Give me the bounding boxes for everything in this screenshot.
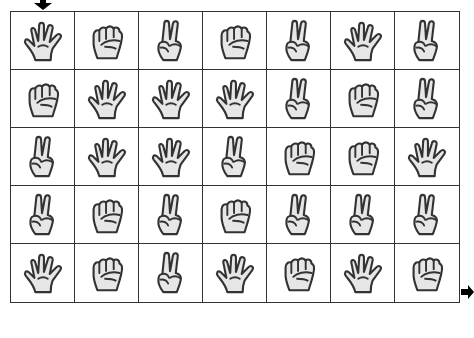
paper-hand-icon [340, 250, 386, 296]
scissors-hand-icon [148, 18, 194, 64]
grid-cell-r3-c4[interactable] [203, 128, 267, 186]
scissors-hand-icon [20, 192, 66, 238]
grid-cell-r2-c2[interactable] [75, 70, 139, 128]
paper-hand-icon [148, 76, 194, 122]
grid-cell-r5-c5[interactable] [267, 244, 331, 302]
scissors-hand-icon [276, 76, 322, 122]
scissors-hand-icon [148, 192, 194, 238]
grid-cell-r1-c6[interactable] [331, 12, 395, 70]
paper-hand-icon [212, 250, 258, 296]
scissors-hand-icon [340, 192, 386, 238]
paper-hand-icon [340, 18, 386, 64]
grid-cell-r4-c1[interactable] [11, 186, 75, 244]
scissors-hand-icon [148, 250, 194, 296]
rock-hand-icon [212, 192, 258, 238]
grid-cell-r2-c6[interactable] [331, 70, 395, 128]
rock-hand-icon [84, 250, 130, 296]
grid-cell-r2-c7[interactable] [395, 70, 459, 128]
grid-cell-r4-c4[interactable] [203, 186, 267, 244]
puzzle-grid [10, 11, 460, 303]
scissors-hand-icon [404, 18, 450, 64]
scissors-hand-icon [404, 192, 450, 238]
paper-hand-icon [148, 134, 194, 180]
end-arrow-icon [461, 285, 474, 299]
grid-cell-r3-c1[interactable] [11, 128, 75, 186]
grid-cell-r5-c6[interactable] [331, 244, 395, 302]
grid-cell-r5-c4[interactable] [203, 244, 267, 302]
grid-cell-r1-c1[interactable] [11, 12, 75, 70]
grid-cell-r1-c3[interactable] [139, 12, 203, 70]
rock-hand-icon [20, 76, 66, 122]
grid-cell-r4-c5[interactable] [267, 186, 331, 244]
scissors-hand-icon [404, 76, 450, 122]
rock-hand-icon [404, 250, 450, 296]
rock-hand-icon [340, 76, 386, 122]
rock-hand-icon [84, 18, 130, 64]
rock-hand-icon [340, 134, 386, 180]
grid-cell-r4-c7[interactable] [395, 186, 459, 244]
grid-cell-r1-c7[interactable] [395, 12, 459, 70]
paper-hand-icon [84, 134, 130, 180]
paper-hand-icon [404, 134, 450, 180]
grid-cell-r5-c1[interactable] [11, 244, 75, 302]
paper-hand-icon [84, 76, 130, 122]
grid-cell-r1-c5[interactable] [267, 12, 331, 70]
grid-cell-r5-c2[interactable] [75, 244, 139, 302]
grid-cell-r1-c2[interactable] [75, 12, 139, 70]
grid-cell-r3-c7[interactable] [395, 128, 459, 186]
scissors-hand-icon [276, 192, 322, 238]
grid-cell-r5-c3[interactable] [139, 244, 203, 302]
grid-cell-r3-c5[interactable] [267, 128, 331, 186]
scissors-hand-icon [212, 134, 258, 180]
grid-cell-r2-c3[interactable] [139, 70, 203, 128]
grid-cell-r2-c1[interactable] [11, 70, 75, 128]
grid-cell-r3-c6[interactable] [331, 128, 395, 186]
scissors-hand-icon [276, 18, 322, 64]
grid-cell-r3-c2[interactable] [75, 128, 139, 186]
rock-hand-icon [212, 18, 258, 64]
paper-hand-icon [20, 250, 66, 296]
grid-cell-r1-c4[interactable] [203, 12, 267, 70]
scissors-hand-icon [20, 134, 66, 180]
grid-cell-r3-c3[interactable] [139, 128, 203, 186]
rock-hand-icon [84, 192, 130, 238]
paper-hand-icon [20, 18, 66, 64]
grid-cell-r4-c6[interactable] [331, 186, 395, 244]
grid-cell-r2-c4[interactable] [203, 70, 267, 128]
grid-cell-r4-c2[interactable] [75, 186, 139, 244]
paper-hand-icon [212, 76, 258, 122]
start-arrow-icon [34, 0, 52, 10]
rock-hand-icon [276, 134, 322, 180]
rock-hand-icon [276, 250, 322, 296]
grid-cell-r2-c5[interactable] [267, 70, 331, 128]
grid-cell-r4-c3[interactable] [139, 186, 203, 244]
grid-cell-r5-c7[interactable] [395, 244, 459, 302]
